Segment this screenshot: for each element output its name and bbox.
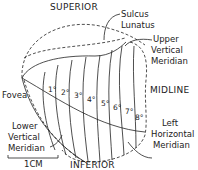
ecc-label-7: 7° xyxy=(125,107,134,116)
lower-vm-label-3: Meridian xyxy=(8,143,45,153)
ecc-label-5: 5° xyxy=(101,99,110,108)
sulcus-label-2: Lunatus xyxy=(121,20,155,30)
left-hm-leader xyxy=(128,142,152,158)
iso-ecc-7 xyxy=(119,46,124,155)
iso-ecc-2 xyxy=(56,65,66,155)
left-hm-label-3: Meridian xyxy=(153,140,190,150)
fovea-label: Fovea xyxy=(2,90,27,100)
scale-label: 1CM xyxy=(24,159,43,169)
visual-cortex-map-diagram: SUPERIOR INFERIOR MIDLINE Fovea Sulcus L… xyxy=(0,0,198,170)
ecc-label-3: 3° xyxy=(74,91,83,100)
ecc-label-1: 1° xyxy=(48,85,57,94)
sulcus-lunatus-line xyxy=(24,38,125,58)
sulcus-leader xyxy=(104,14,120,40)
upper-vm-label-3: Meridian xyxy=(151,56,188,66)
iso-ecc-4 xyxy=(83,57,88,161)
diagram-svg: SUPERIOR INFERIOR MIDLINE Fovea Sulcus L… xyxy=(0,0,198,170)
sulcus-label-1: Sulcus xyxy=(121,9,149,19)
midline-label: MIDLINE xyxy=(150,85,190,95)
superior-label: SUPERIOR xyxy=(50,2,98,12)
upper-vm-label-1: Upper xyxy=(153,34,179,44)
left-hm-label-1: Left xyxy=(162,118,179,128)
ecc-label-2: 2° xyxy=(61,88,70,97)
left-hm-label-2: Horizontal xyxy=(151,129,194,139)
iso-ecc-5 xyxy=(97,55,100,162)
inferior-label: INFERIOR xyxy=(70,160,115,170)
lower-vm-label-1: Lower xyxy=(12,121,38,131)
upper-vm-label-2: Vertical xyxy=(151,45,183,55)
lower-vm-label-2: Vertical xyxy=(8,132,40,142)
ecc-label-4: 4° xyxy=(87,95,96,104)
ecc-label-6: 6° xyxy=(113,103,122,112)
upper-vm-leader xyxy=(125,39,152,46)
ecc-label-8: 8° xyxy=(135,113,144,122)
iso-ecc-1 xyxy=(43,72,55,150)
iso-ecc-8 xyxy=(133,46,136,148)
